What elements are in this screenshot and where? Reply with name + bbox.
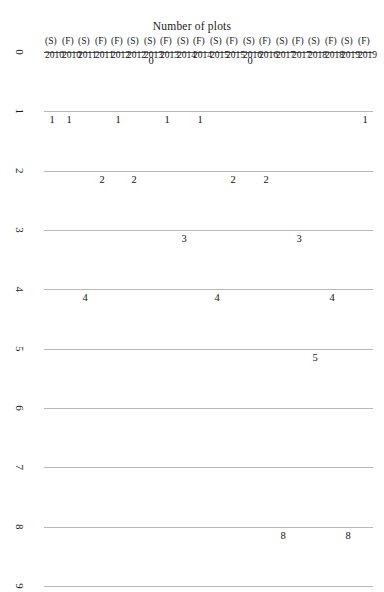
tick-label-3: 3 <box>14 227 26 233</box>
bar-value-label-2018-S: 5 <box>310 355 321 360</box>
tick-label-6: 6 <box>14 405 26 411</box>
bar-value-label-2010-S: 1 <box>47 117 58 122</box>
bar-2010-F <box>62 52 76 111</box>
bar-value-text: 1 <box>165 114 170 125</box>
bar-2014-F <box>193 52 207 111</box>
bar-chart-figure: Number of plots 0123456789 1142120131420… <box>0 0 384 592</box>
bar-2015-S <box>210 52 224 289</box>
category-season-2011-S: (S) <box>78 36 90 46</box>
tick-label-2: 2 <box>14 168 26 174</box>
bar-value-label-2012-S: 1 <box>113 117 124 122</box>
category-season-2019-S: (S) <box>341 36 353 46</box>
bar-value-label-2015-S: 4 <box>211 295 222 300</box>
bar-value-text: 3 <box>296 233 301 244</box>
tick-label-8: 8 <box>14 524 26 530</box>
bars-group: 11421201314202835481 <box>44 52 373 586</box>
bar-value-label-2018-F: 4 <box>326 295 337 300</box>
category-season-2012-F: (S) <box>127 36 139 46</box>
bar-value-label-2019-F: 1 <box>359 117 370 122</box>
bar-value-text: 5 <box>313 352 318 363</box>
category-season-2016-F: (F) <box>259 36 271 46</box>
bar-value-text: 2 <box>99 174 104 185</box>
category-season-2018-F: (F) <box>325 36 337 46</box>
bar-value-label-2011-F: 2 <box>96 177 107 182</box>
bar-value-text: 8 <box>280 530 285 541</box>
bar-value-label-2014-S: 3 <box>178 236 189 241</box>
category-season-2011-F: (F) <box>95 36 107 46</box>
bar-value-text: 2 <box>132 174 137 185</box>
bar-value-text: 2 <box>263 174 268 185</box>
plot-area: 0123456789 11421201314202835481 2010(S)2… <box>44 52 373 586</box>
gridline-9 <box>44 586 373 587</box>
bar-2019-F <box>358 52 372 111</box>
bar-value-label-2012-F: 2 <box>129 177 140 182</box>
tick-label-5: 5 <box>14 346 26 352</box>
category-season-2013-F: (F) <box>160 36 172 46</box>
bar-value-text: 1 <box>362 114 367 125</box>
bar-value-text: 1 <box>198 114 203 125</box>
bar-2018-S <box>308 52 322 349</box>
bar-value-label-2016-F: 2 <box>261 177 272 182</box>
category-season-2019-F: (F) <box>358 36 370 46</box>
bar-value-label-2014-F: 1 <box>195 117 206 122</box>
bar-2017-S <box>276 52 290 527</box>
category-season-2010-F: (F) <box>62 36 74 46</box>
bar-value-text: 1 <box>66 114 71 125</box>
bar-value-label-2011-S: 4 <box>80 295 91 300</box>
bar-2014-S <box>177 52 191 230</box>
bar-value-text: 8 <box>346 530 351 541</box>
category-season-2012-S: (F) <box>111 36 123 46</box>
tick-label-9: 9 <box>14 583 26 589</box>
category-season-2015-S: (S) <box>210 36 222 46</box>
bar-value-text: 1 <box>50 114 55 125</box>
bar-2017-F <box>292 52 306 230</box>
tick-label-0: 0 <box>14 49 26 55</box>
category-season-2015-F: (F) <box>226 36 238 46</box>
bar-value-text: 4 <box>83 292 88 303</box>
category-year-2011-S: 2011 <box>78 50 97 60</box>
bar-2013-F <box>160 52 174 111</box>
bar-value-text: 4 <box>329 292 334 303</box>
category-season-2017-F: (F) <box>292 36 304 46</box>
bar-2012-F <box>127 52 141 171</box>
bar-value-text: 1 <box>115 114 120 125</box>
rotated-figure-canvas: Number of plots 0123456789 1142120131420… <box>0 0 384 592</box>
category-season-2018-S: (S) <box>308 36 320 46</box>
bar-value-label-2015-F: 2 <box>228 177 239 182</box>
bar-value-label-2019-S: 8 <box>343 533 354 538</box>
bar-value-label-2010-F: 1 <box>63 117 74 122</box>
bar-2011-F <box>95 52 109 171</box>
tick-label-4: 4 <box>14 287 26 293</box>
bar-2011-S <box>78 52 92 289</box>
bar-value-text: 4 <box>214 292 219 303</box>
bar-value-text: 3 <box>181 233 186 244</box>
tick-label-1: 1 <box>14 109 26 115</box>
bar-2018-F <box>325 52 339 289</box>
tick-label-7: 7 <box>14 465 26 471</box>
bar-value-label-2013-F: 1 <box>162 117 173 122</box>
category-year-2019-F: 2019 <box>358 50 377 60</box>
bar-2010-S <box>45 52 59 111</box>
category-season-2017-S: (S) <box>276 36 288 46</box>
bar-2016-F <box>259 52 273 171</box>
bar-2019-S <box>341 52 355 527</box>
bar-2015-F <box>226 52 240 171</box>
category-season-2010-S: (S) <box>45 36 57 46</box>
bar-value-label-2017-S: 8 <box>277 533 288 538</box>
value-axis-title: Number of plots <box>0 20 384 32</box>
category-season-2014-S: (S) <box>177 36 189 46</box>
bar-value-text: 2 <box>231 174 236 185</box>
category-season-2014-F: (F) <box>193 36 205 46</box>
bar-value-label-2017-F: 3 <box>293 236 304 241</box>
bar-2012-S <box>111 52 125 111</box>
category-season-2016-S: (S) <box>243 36 255 46</box>
category-season-2013-S: (S) <box>144 36 156 46</box>
